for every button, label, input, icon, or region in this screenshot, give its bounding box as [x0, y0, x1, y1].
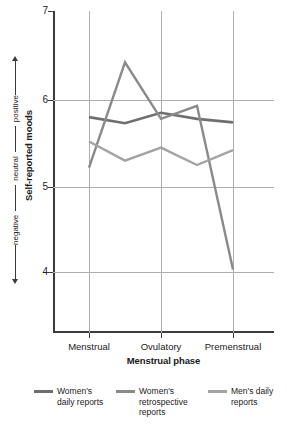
legend-swatch-womens-daily: [34, 390, 53, 393]
x-axis-title: Menstrual phase: [53, 355, 274, 366]
scale-dash-1: [15, 185, 16, 211]
y-axis-scale-annotation: negative neutral positive: [8, 20, 22, 320]
legend-swatch-mens-daily: [208, 390, 227, 393]
legend-label-mens-daily: Men's daily reports: [231, 386, 282, 407]
scale-tail-left: [15, 245, 16, 279]
series-line-mens-daily: [89, 142, 233, 165]
legend-item-womens-daily: Women's daily reports: [34, 386, 110, 407]
x-tick-mark-premenstrual: [233, 333, 234, 338]
scale-tail-right: [15, 61, 16, 95]
y-tick-label-4: 4: [32, 267, 48, 277]
series-lines: [53, 11, 274, 333]
negative-arrow-icon: [12, 279, 18, 284]
plot-area: Menstrual Ovulatory Premenstrual: [53, 11, 274, 333]
y-scale-mid-label: neutral: [11, 156, 20, 180]
x-tick-label-ovulatory: Ovulatory: [141, 341, 182, 352]
scale-dash-2: [15, 126, 16, 152]
x-tick-label-menstrual: Menstrual: [68, 341, 110, 352]
y-axis-title: Self-reported moods: [23, 66, 34, 246]
y-tick-label-6: 6: [32, 95, 48, 105]
legend-item-womens-retrospective: Women's retrospective reports: [116, 386, 202, 418]
y-scale-high-label: positive: [11, 95, 20, 122]
x-tick-mark-menstrual: [89, 333, 90, 338]
line-chart-figure: Self-reported moods negative neutral pos…: [0, 0, 287, 431]
x-tick-label-premenstrual: Premenstrual: [205, 341, 262, 352]
legend-item-mens-daily: Men's daily reports: [208, 386, 282, 407]
x-tick-mark-ovulatory: [161, 333, 162, 338]
chart-legend: Women's daily reports Women's retrospect…: [34, 386, 284, 418]
y-tick-label-5: 5: [32, 182, 48, 192]
series-line-womens-retrospective: [89, 62, 233, 269]
legend-swatch-womens-retrospective: [116, 390, 135, 393]
legend-label-womens-retrospective: Women's retrospective reports: [139, 386, 202, 418]
legend-label-womens-daily: Women's daily reports: [57, 386, 110, 407]
positive-arrow-icon: [12, 56, 18, 61]
y-scale-low-label: negative: [11, 215, 20, 245]
y-tick-label-7: 7: [32, 6, 48, 16]
